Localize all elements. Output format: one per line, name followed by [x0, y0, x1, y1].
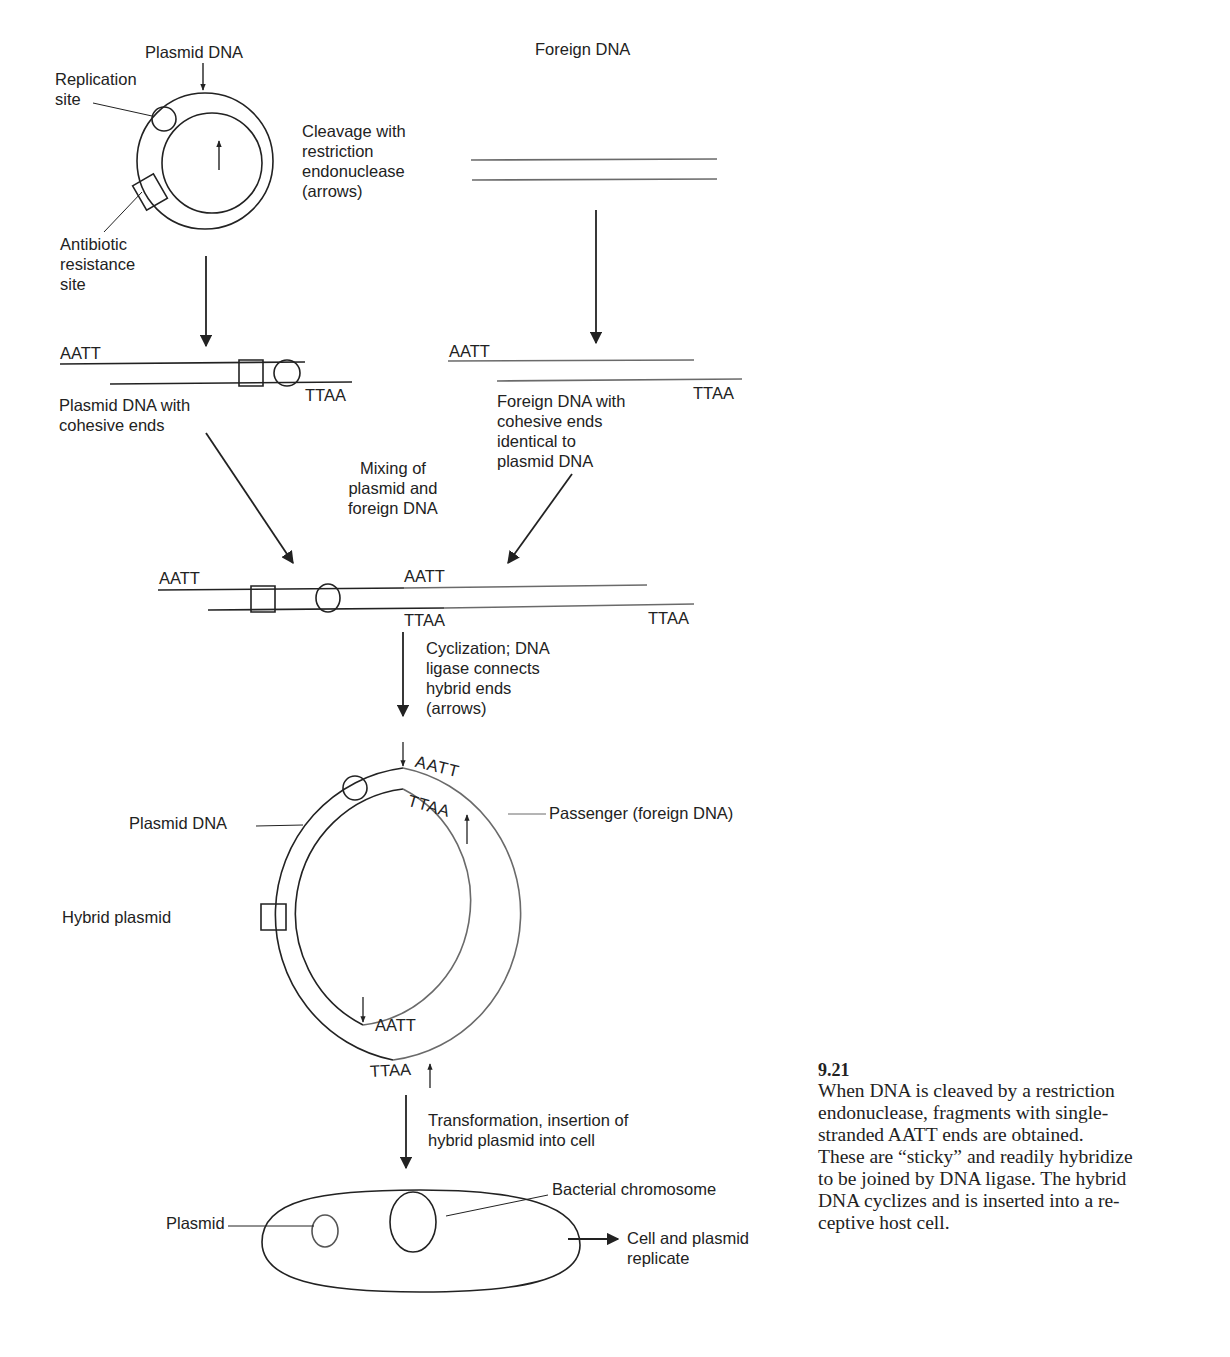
foreign-bottom-seq: TTAA	[693, 384, 734, 402]
transformation-label: Transformation, insertion of hybrid plas…	[428, 1110, 628, 1150]
antibiotic-site-marker	[133, 174, 168, 210]
hybrid-right-bottom-seq: TTAA	[648, 609, 689, 627]
foreign-cohesive-label: Foreign DNA with cohesive ends identical…	[497, 391, 625, 471]
linear-foreign	[448, 360, 742, 381]
cyclization-label: Cyclization; DNA ligase connects hybrid …	[426, 638, 550, 718]
arrow-plasmid-mix	[206, 433, 293, 563]
linear-plasmid	[60, 360, 352, 386]
passenger-label: Passenger (foreign DNA)	[549, 803, 733, 823]
hybrid-plasmid-label: Hybrid plasmid	[62, 907, 171, 927]
plasmid-top-seq: AATT	[60, 344, 101, 362]
plasmid-bottom-seq: TTAA	[305, 386, 346, 404]
bacterial-chromosome	[390, 1192, 436, 1252]
figure-number: 9.21	[818, 1060, 850, 1081]
arrow-foreign-mix	[508, 474, 572, 563]
hybrid-mid-top-seq: AATT	[404, 567, 445, 585]
ring-bottom-inner-seq: AATT	[375, 1016, 416, 1034]
plasmid-cohesive-label: Plasmid DNA with cohesive ends	[59, 395, 190, 435]
replication-site-marker	[152, 107, 176, 131]
ring-bottom-outer-seq: TTAA	[370, 1060, 412, 1080]
cleavage-label: Cleavage with restriction endonuclease (…	[302, 121, 406, 201]
foreign-top-seq: AATT	[449, 342, 490, 360]
chromosome-label: Bacterial chromosome	[552, 1179, 716, 1199]
hybrid-mid-bottom-seq: TTAA	[404, 611, 445, 629]
plasmid-dna-title: Plasmid DNA	[145, 42, 243, 62]
recombinant-dna-diagram: Plasmid DNA Replication site Antibiotic …	[0, 0, 1230, 1357]
figure-caption: When DNA is cleaved by a restriction end…	[818, 1080, 1230, 1234]
cell-plasmid	[312, 1215, 338, 1247]
original-plasmid	[93, 93, 273, 232]
annealed-hybrid	[158, 584, 694, 612]
replicate-label: Cell and plasmid replicate	[627, 1228, 749, 1268]
hybrid-left-top-seq: AATT	[159, 569, 200, 587]
antibiotic-site-marker-hybrid	[261, 904, 286, 930]
ring-plasmid-dna-label: Plasmid DNA	[129, 813, 227, 833]
foreign-dna-title: Foreign DNA	[535, 39, 630, 59]
foreign-dna-strands	[471, 159, 717, 180]
mixing-label: Mixing of plasmid and foreign DNA	[348, 458, 438, 518]
antibiotic-site-label: Antibiotic resistance site	[60, 234, 135, 294]
cell-plasmid-label: Plasmid	[166, 1213, 225, 1233]
replication-site-label: Replication site	[55, 69, 137, 109]
host-cell	[228, 1190, 580, 1292]
